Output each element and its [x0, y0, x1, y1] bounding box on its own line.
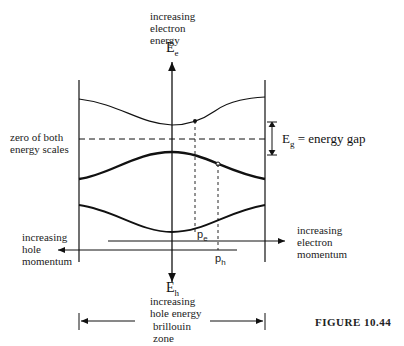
pe-label: pe — [197, 228, 208, 243]
electron-momentum-label: increasing electron momentum — [297, 224, 347, 260]
ph-label: ph — [215, 252, 226, 267]
zero-energy-label: zero of both energy scales — [10, 131, 69, 155]
hole-momentum-label: increasing hole momentum — [22, 231, 72, 267]
figure-caption: FIGURE 10.44 — [315, 316, 391, 328]
energy-gap-label: Eg = energy gap — [282, 131, 365, 149]
brillouin-zone-label: brillouin zone — [153, 320, 191, 344]
ee-symbol: Ee — [166, 40, 179, 58]
hole-energy-label: increasing hole energy — [150, 295, 201, 319]
band-diagram — [0, 0, 404, 346]
